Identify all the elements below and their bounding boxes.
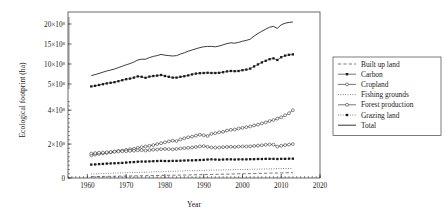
x-tick-label: 2010 xyxy=(274,182,289,190)
data-point xyxy=(249,145,252,148)
legend-marker xyxy=(346,83,349,86)
data-point xyxy=(113,150,116,153)
data-point xyxy=(210,72,212,74)
data-point xyxy=(90,152,93,155)
data-point xyxy=(171,139,174,142)
data-point xyxy=(144,145,147,148)
legend-label: Carbon xyxy=(361,70,383,79)
data-point xyxy=(234,158,236,160)
data-point xyxy=(98,84,100,86)
data-point xyxy=(230,158,232,160)
data-point xyxy=(264,143,267,146)
data-point xyxy=(187,159,189,161)
data-point xyxy=(214,158,216,160)
data-point xyxy=(234,70,236,72)
data-point xyxy=(129,149,132,152)
data-point xyxy=(257,158,259,160)
data-point xyxy=(98,163,100,165)
data-point xyxy=(268,143,271,146)
data-point xyxy=(280,158,282,160)
data-point xyxy=(164,160,166,162)
data-point xyxy=(257,144,260,147)
data-point xyxy=(187,74,189,76)
data-point xyxy=(183,159,185,161)
data-point xyxy=(218,146,221,149)
x-tick-label: 1980 xyxy=(158,182,173,190)
data-point xyxy=(222,130,225,133)
data-point xyxy=(198,133,201,136)
data-point xyxy=(253,124,256,127)
data-point xyxy=(226,129,229,132)
data-point xyxy=(152,75,154,77)
data-point xyxy=(148,144,151,147)
data-point xyxy=(163,141,166,144)
chart-legend[interactable]: Built up landCarbonCroplandFishing groun… xyxy=(333,57,441,135)
data-point xyxy=(233,128,236,131)
data-point xyxy=(156,160,158,162)
legend-label: Forest production xyxy=(361,100,414,109)
y-tick-label: 15×108 xyxy=(44,40,65,49)
data-point xyxy=(117,80,119,82)
data-point xyxy=(144,77,146,79)
data-point xyxy=(218,72,220,74)
data-point xyxy=(175,140,178,143)
data-point xyxy=(276,158,278,160)
x-tick-label: 2000 xyxy=(235,182,250,190)
data-point xyxy=(276,145,279,148)
data-point xyxy=(125,78,127,80)
data-point xyxy=(191,135,194,138)
data-point xyxy=(272,158,274,160)
data-point xyxy=(210,146,213,149)
data-point xyxy=(288,54,290,56)
data-point xyxy=(261,158,263,160)
data-point xyxy=(198,145,201,148)
data-point xyxy=(222,158,224,160)
data-point xyxy=(291,143,294,146)
data-point xyxy=(171,148,174,151)
data-point xyxy=(136,149,139,152)
x-tick-label: 1960 xyxy=(80,182,95,190)
data-point xyxy=(101,151,104,154)
data-point xyxy=(292,53,294,55)
data-point xyxy=(249,67,251,69)
data-point xyxy=(245,68,247,70)
data-point xyxy=(102,83,104,85)
data-point xyxy=(222,71,224,73)
data-point xyxy=(264,121,267,124)
data-point xyxy=(210,132,213,135)
data-point xyxy=(187,146,190,149)
y-axis-title: Ecological footprint (ha) xyxy=(18,62,27,138)
data-point xyxy=(276,117,279,120)
data-point xyxy=(117,150,120,153)
legend-label: Grazing land xyxy=(361,111,400,120)
data-point xyxy=(222,146,225,149)
data-point xyxy=(272,119,275,122)
data-point xyxy=(132,149,135,152)
data-point xyxy=(288,112,291,115)
data-point xyxy=(167,148,170,151)
data-point xyxy=(160,148,163,151)
data-point xyxy=(206,72,208,74)
data-point xyxy=(183,147,186,150)
data-point xyxy=(121,150,124,153)
data-point xyxy=(265,60,267,62)
data-point xyxy=(160,74,162,76)
data-point xyxy=(229,128,232,131)
data-point xyxy=(175,160,177,162)
data-point xyxy=(210,158,212,160)
chart-figure: 5×10810×10815×10820×108 02×1084×108 1960… xyxy=(0,0,445,214)
data-point xyxy=(214,132,217,135)
data-point xyxy=(194,146,197,149)
data-point xyxy=(288,143,291,146)
data-point xyxy=(272,143,275,146)
data-point xyxy=(284,114,287,117)
data-point xyxy=(195,72,197,74)
data-point xyxy=(253,145,256,148)
data-point xyxy=(195,159,197,161)
data-point xyxy=(191,159,193,161)
data-point xyxy=(194,134,197,137)
data-point xyxy=(105,151,108,154)
data-point xyxy=(183,137,186,140)
data-point xyxy=(268,120,271,123)
data-point xyxy=(141,76,143,78)
